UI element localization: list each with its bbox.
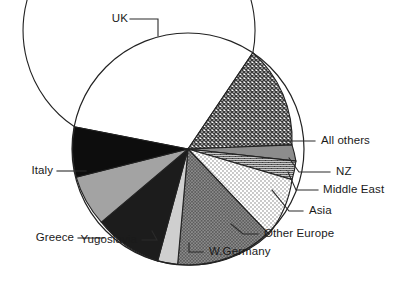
pie-label-italy: Italy (31, 165, 53, 177)
pie-label-uk: UK (112, 13, 128, 25)
pie-label-greece: Greece (36, 232, 74, 244)
pie-label-yugoslavia: Yugoslavia (80, 234, 137, 246)
pie-label-w-germany: W.Germany (209, 246, 271, 258)
pie-label-all-others: All others (321, 135, 370, 147)
pie-label-asia: Asia (309, 205, 332, 217)
pie-label-other-europe: Other Europe (264, 228, 334, 240)
pie-label-middle-east: Middle East (323, 184, 384, 196)
pie-chart-figure: UK All others NZ Middle East Asia Other … (0, 0, 404, 294)
pie-chart-canvas (0, 0, 404, 294)
pie-label-nz: NZ (336, 166, 352, 178)
